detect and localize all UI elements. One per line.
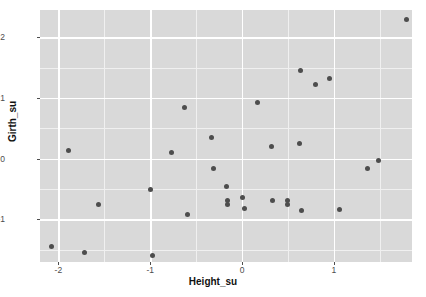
data-point xyxy=(376,158,381,163)
data-point xyxy=(297,141,302,146)
y-gridline-minor xyxy=(40,68,412,69)
y-tick-mark xyxy=(37,219,40,220)
y-tick-mark xyxy=(37,159,40,160)
data-point xyxy=(337,207,342,212)
data-point xyxy=(209,135,214,140)
data-point xyxy=(150,253,155,258)
y-tick-mark xyxy=(37,98,40,99)
y-gridline-minor xyxy=(40,189,412,190)
data-point xyxy=(182,105,187,110)
plot-panel xyxy=(40,10,412,262)
x-tick-label: 0 xyxy=(240,265,245,275)
data-point xyxy=(185,212,190,217)
y-tick-label: -1 xyxy=(0,214,5,224)
data-point xyxy=(82,250,87,255)
data-point xyxy=(96,202,101,207)
data-point xyxy=(240,195,245,200)
y-gridline-major xyxy=(40,37,412,38)
data-point xyxy=(49,244,54,249)
y-gridline-major xyxy=(40,159,412,160)
x-gridline-minor xyxy=(288,10,289,262)
y-tick-label: 2 xyxy=(0,32,5,42)
data-point xyxy=(211,166,216,171)
x-tick-label: 1 xyxy=(332,265,337,275)
data-point xyxy=(270,198,275,203)
data-point xyxy=(298,68,303,73)
y-tick-mark xyxy=(37,37,40,38)
x-gridline-major xyxy=(58,10,59,262)
data-point xyxy=(313,82,318,87)
y-gridline-minor xyxy=(40,250,412,251)
data-point xyxy=(365,166,370,171)
y-tick-label: 0 xyxy=(0,154,5,164)
x-gridline-minor xyxy=(104,10,105,262)
x-gridline-major xyxy=(242,10,243,262)
y-gridline-major xyxy=(40,98,412,99)
y-axis-label: Girth_su xyxy=(7,86,18,158)
data-point xyxy=(269,144,274,149)
x-gridline-major xyxy=(334,10,335,262)
y-tick-label: 1 xyxy=(0,93,5,103)
x-gridline-minor xyxy=(196,10,197,262)
x-gridline-minor xyxy=(380,10,381,262)
data-point xyxy=(225,202,230,207)
x-tick-label: -1 xyxy=(146,265,154,275)
data-point xyxy=(66,148,71,153)
data-point xyxy=(404,17,409,22)
y-gridline-minor xyxy=(40,128,412,129)
data-point xyxy=(242,206,247,211)
data-point xyxy=(255,100,260,105)
data-point xyxy=(299,208,304,213)
x-axis-label: Height_su xyxy=(0,276,426,287)
scatter-plot-figure: Height_su Girth_su -2-101-1012 xyxy=(0,0,426,297)
data-point xyxy=(285,202,290,207)
x-tick-label: -2 xyxy=(55,265,63,275)
data-point xyxy=(148,187,153,192)
x-gridline-major xyxy=(150,10,151,262)
y-gridline-major xyxy=(40,219,412,220)
data-point xyxy=(169,150,174,155)
data-point xyxy=(327,76,332,81)
